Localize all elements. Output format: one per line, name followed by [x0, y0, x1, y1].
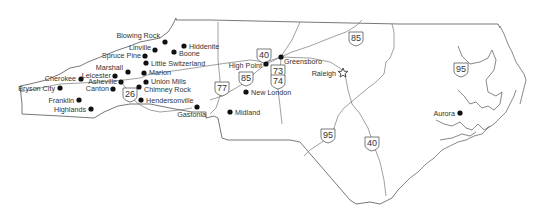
shield-number: 74	[273, 76, 283, 86]
city-dot-icon	[227, 109, 232, 114]
city-dot-icon	[171, 49, 176, 54]
road-i95	[304, 24, 394, 156]
city-dot-icon	[181, 43, 186, 48]
city-highlands: Highlands	[54, 105, 94, 114]
city-label: Chimney Rock	[144, 85, 191, 94]
shield-number: 40	[367, 138, 377, 148]
road-i77	[210, 22, 220, 114]
coastline	[398, 26, 526, 190]
city-label: Greensboro	[284, 57, 322, 66]
city-label: Little Switzerland	[151, 59, 205, 68]
shield-number: 26	[125, 89, 135, 99]
city-dot-icon	[457, 110, 462, 115]
city-dot-icon	[110, 86, 115, 91]
interstate-shield-95: 95	[454, 63, 468, 77]
city-label: Marion	[149, 68, 171, 77]
city-label: Gastonia	[177, 110, 206, 119]
city-dot-icon	[194, 104, 199, 109]
city-label: Spruce Pine	[102, 51, 141, 60]
shield-number: 73	[273, 66, 283, 76]
city-midland: Midland	[227, 108, 260, 117]
city-dot-icon	[142, 53, 147, 58]
interstate-shield-40: 40	[365, 137, 379, 151]
shield-number: 85	[351, 33, 361, 43]
city-dot-icon	[138, 97, 143, 102]
city-dot-icon	[143, 60, 148, 65]
city-label: Canton	[86, 84, 109, 93]
interstate-shield-26: 26	[123, 88, 137, 102]
capital-star-icon	[338, 68, 348, 77]
city-dot-icon	[76, 97, 81, 102]
capital-label: Raleigh	[312, 69, 336, 78]
city-gastonia: Gastonia	[177, 104, 206, 119]
city-dot-icon	[141, 70, 146, 75]
city-dot-icon	[263, 61, 268, 66]
shield-number: 95	[456, 64, 466, 74]
city-dot-icon	[152, 47, 157, 52]
city-label: Boone	[179, 49, 200, 58]
city-cherokee: Cherokee	[45, 74, 84, 83]
city-label: High Point	[229, 61, 262, 70]
city-dot-icon	[57, 85, 62, 90]
city-new-london: New London	[243, 88, 291, 97]
city-dot-icon	[78, 76, 83, 81]
city-spruce-pine: Spruce Pine	[102, 51, 148, 60]
city-little-switzerland: Little Switzerland	[143, 59, 205, 68]
city-label: New London	[251, 88, 291, 97]
city-aurora: Aurora	[433, 109, 462, 118]
city-label: Hendersonville	[146, 96, 194, 105]
city-bryson-city: Bryson City	[18, 84, 62, 93]
city-dot-icon	[162, 39, 167, 44]
shield-number: 40	[259, 50, 269, 60]
city-chimney-rock: Chimney Rock	[136, 84, 191, 94]
interstate-shield-95: 95	[321, 129, 335, 143]
city-label: Highlands	[54, 105, 86, 114]
city-dot-icon	[136, 84, 141, 89]
capital: Raleigh	[312, 68, 348, 78]
city-dot-icon	[278, 54, 283, 59]
city-dot-icon	[243, 89, 248, 94]
interstate-shield-85: 85	[349, 32, 363, 46]
city-dot-icon	[88, 106, 93, 111]
interstate-shield-85: 85	[239, 72, 253, 86]
city-dot-icon	[118, 79, 123, 84]
city-label: Bryson City	[18, 84, 55, 93]
city-label: Franklin	[48, 96, 74, 105]
city-boone: Boone	[171, 49, 199, 58]
city-dot-icon	[143, 79, 148, 84]
city-hendersonville: Hendersonville	[138, 96, 193, 105]
city-greensboro: Greensboro	[278, 54, 322, 66]
city-label: Midland	[235, 108, 260, 117]
shield-number: 77	[217, 83, 227, 93]
north-carolina-map: 40857374857726959540 Blowing RockLinvill…	[0, 0, 542, 214]
shield-number: 85	[241, 73, 251, 83]
city-label: Cherokee	[45, 74, 76, 83]
city-label: Aurora	[433, 109, 455, 118]
city-franklin: Franklin	[48, 96, 81, 105]
city-label: Blowing Rock	[116, 31, 160, 40]
interstate-shield-74: 74	[271, 75, 285, 89]
city-dot-icon	[125, 69, 130, 74]
shield-number: 95	[323, 130, 333, 140]
interstate-shield-77: 77	[215, 82, 229, 96]
